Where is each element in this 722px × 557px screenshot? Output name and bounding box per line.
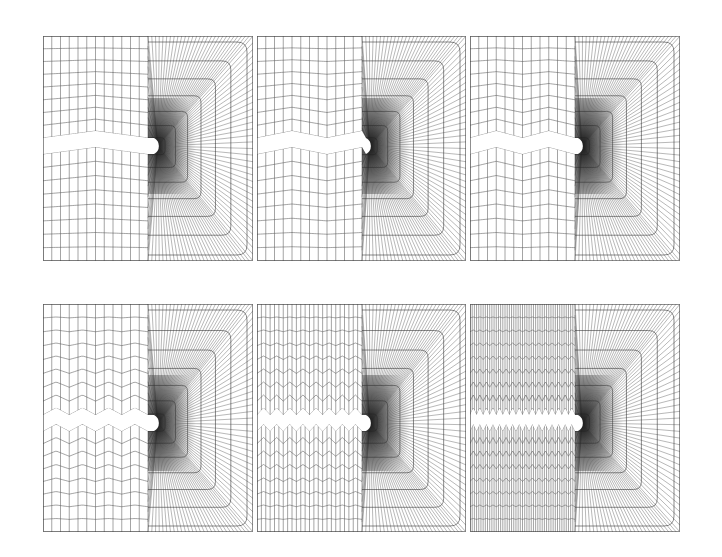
mesh-panel-5 (257, 304, 466, 532)
crack-notch (470, 408, 583, 431)
mesh-svg (43, 304, 253, 532)
mesh-svg (470, 304, 680, 532)
mesh-panel-1 (43, 36, 253, 261)
mesh-panel-3 (470, 36, 680, 261)
crack-notch (470, 131, 583, 154)
mesh-svg (257, 304, 466, 532)
mesh-svg (470, 36, 680, 261)
mesh-svg (257, 36, 466, 261)
mesh-panel-6 (470, 304, 680, 532)
mesh-panel-4 (43, 304, 253, 532)
mesh-svg (43, 36, 253, 261)
mesh-panel-2 (257, 36, 466, 261)
mesh-figure (0, 0, 722, 557)
